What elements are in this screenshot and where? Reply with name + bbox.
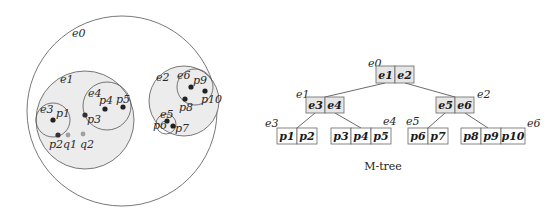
region-label-e1: e1 <box>60 73 74 86</box>
point-p1 <box>50 117 55 122</box>
entry-text-e3: e3 <box>308 99 323 112</box>
node-label-e4: e4 <box>383 115 397 128</box>
region-label-e6: e6 <box>177 69 191 82</box>
entry-text-p9: p9 <box>483 130 499 143</box>
edge-e5-to-node-e5 <box>428 113 445 128</box>
point-label-p10: p10 <box>201 93 222 106</box>
query-point-q2 <box>81 132 86 137</box>
point-p2 <box>55 132 60 137</box>
point-label-p2: p2 <box>49 138 63 151</box>
point-label-p3: p3 <box>87 113 101 126</box>
node-label-e5: e5 <box>406 115 420 128</box>
point-label-p8: p8 <box>179 101 193 114</box>
spatial-diagram: e0 e1 e2 e3 e4 e5 e6 p1 p2 p3 p4 p5 p6 p… <box>27 16 222 206</box>
entry-text-p7: p7 <box>430 130 446 143</box>
tree-caption: M-tree <box>364 160 402 173</box>
tree-diagram: e0 e1 e2 e1 e3 e4 e2 e5 e6 e3 p1 p2 e4 p… <box>265 57 541 173</box>
entry-text-e4: e4 <box>327 99 342 112</box>
point-label-p5: p5 <box>116 93 130 106</box>
node-label-e3: e3 <box>265 117 279 130</box>
entry-text-e2: e2 <box>397 69 412 82</box>
point-label-p9: p9 <box>193 74 207 87</box>
point-label-p4: p4 <box>99 94 113 107</box>
region-label-e3: e3 <box>40 103 54 116</box>
entry-text-p1: p1 <box>279 130 294 143</box>
point-label-p1: p1 <box>56 107 70 120</box>
point-label-p6: p6 <box>153 119 167 132</box>
node-label-e2: e2 <box>477 88 491 101</box>
node-label-e6: e6 <box>527 117 541 130</box>
entry-text-e5: e5 <box>438 99 453 112</box>
point-p4 <box>102 106 107 111</box>
m-tree-figure: e0 e1 e2 e3 e4 e5 e6 p1 p2 p3 p4 p5 p6 p… <box>0 0 558 221</box>
region-label-e2: e2 <box>156 71 170 84</box>
entry-text-p6: p6 <box>410 130 426 143</box>
edge-e3-to-node-e3 <box>297 113 315 128</box>
point-label-p7: p7 <box>175 122 189 135</box>
query-point-q1 <box>66 133 71 138</box>
region-label-e0: e0 <box>72 27 86 40</box>
edge-e1-to-node-e1 <box>325 83 385 97</box>
edge-e4-to-node-e4 <box>335 113 361 128</box>
edge-e6-to-node-e6 <box>465 113 488 128</box>
entry-text-p8: p8 <box>463 130 479 143</box>
entry-text-p4: p4 <box>353 130 368 143</box>
entry-text-p3: p3 <box>333 130 349 143</box>
entry-text-p5: p5 <box>373 130 388 143</box>
entry-text-p10: p10 <box>502 130 525 143</box>
query-label-q1: q1 <box>63 138 77 151</box>
edge-e2-to-node-e2 <box>405 83 455 97</box>
query-label-q2: q2 <box>80 138 94 151</box>
entry-text-p2: p2 <box>299 130 315 143</box>
entry-text-e6: e6 <box>457 99 472 112</box>
entry-text-e1: e1 <box>378 69 393 82</box>
